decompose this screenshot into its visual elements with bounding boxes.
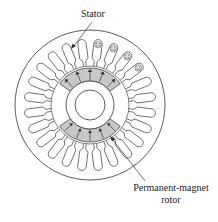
shaft <box>75 90 105 120</box>
winding-icon <box>135 65 141 71</box>
stator-slot <box>25 107 52 117</box>
stator-slot <box>128 93 155 103</box>
stator-slot <box>78 40 88 67</box>
stator-slot <box>128 107 155 117</box>
rotor-shaft <box>66 81 114 129</box>
winding-icon <box>95 42 101 48</box>
rotor-label: Permanent-magnet rotor <box>124 182 218 206</box>
stator-slot <box>92 143 102 170</box>
stator-label: Stator <box>81 8 105 20</box>
rotor-label-line2: rotor <box>124 194 218 206</box>
stator-slot <box>78 143 88 170</box>
winding-icon <box>110 46 116 52</box>
winding-icon <box>124 54 130 60</box>
stator-slot <box>25 93 52 103</box>
rotor-label-line1: Permanent-magnet <box>124 182 218 194</box>
